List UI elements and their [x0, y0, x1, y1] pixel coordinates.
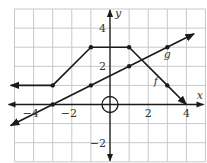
y-tick-label: 4 — [99, 22, 106, 35]
x-tick-label: −4 — [22, 107, 38, 120]
y-axis-label: y — [114, 7, 122, 20]
y-tick-label: −2 — [90, 137, 106, 150]
x-tick-label: 2 — [145, 107, 152, 120]
series-f-point — [51, 83, 55, 87]
series-f-line — [11, 47, 187, 104]
series-g-label: g — [164, 48, 171, 61]
series-g-point — [51, 102, 55, 106]
function-graph: fg−4−22442−2xy — [0, 0, 207, 163]
series-f-point — [165, 83, 169, 87]
series-g-point — [89, 83, 93, 87]
series-f-point — [89, 45, 93, 49]
x-tick-label: −2 — [61, 107, 77, 120]
series-f-point — [127, 45, 131, 49]
y-tick-label: 2 — [99, 60, 106, 73]
series-g-point — [127, 64, 131, 68]
x-tick-label: 4 — [183, 107, 190, 120]
x-axis-label: x — [197, 89, 204, 102]
